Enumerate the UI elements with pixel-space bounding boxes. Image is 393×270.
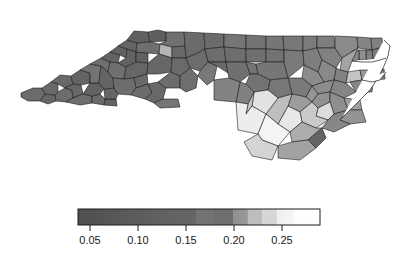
county-polygon	[204, 33, 224, 49]
legend-ticks	[90, 225, 282, 231]
county-polygon	[136, 42, 160, 54]
legend-tick-label: 0.10	[127, 234, 148, 246]
county-polygon	[147, 54, 172, 74]
legend-tick-label: 0.15	[175, 234, 196, 246]
legend-tick-labels: 0.05 0.10 0.15 0.20 0.25	[79, 234, 292, 246]
county-polygon	[148, 30, 166, 42]
county-polygon	[359, 50, 366, 60]
legend: 0.05 0.10 0.15 0.20 0.25	[0, 200, 393, 260]
county-polygon	[266, 36, 284, 50]
county-polygon	[172, 46, 186, 58]
county-polygon	[104, 99, 117, 106]
legend-tick-label: 0.25	[271, 234, 292, 246]
county-polygon	[136, 52, 148, 63]
county-polygon	[246, 49, 266, 62]
county-polygon	[278, 140, 316, 160]
legend-colorbar: 0.05 0.10 0.15 0.20 0.25	[0, 200, 393, 260]
county-polygon	[205, 47, 226, 62]
county-polygon	[214, 78, 240, 102]
legend-tick-label: 0.05	[79, 234, 100, 246]
county-polygon	[246, 35, 266, 49]
county-polygon	[283, 36, 303, 51]
choropleth-figure: 0.05 0.10 0.15 0.20 0.25	[0, 0, 393, 270]
county-polygon	[266, 49, 284, 62]
north-carolina-county-map	[0, 0, 393, 175]
county-polygon	[224, 34, 246, 49]
county-polygon	[224, 47, 246, 62]
county-polygon	[42, 82, 58, 95]
county-polygon	[127, 31, 150, 43]
county-polygon	[366, 50, 373, 60]
legend-tick-label: 0.20	[223, 234, 244, 246]
county-polygon	[317, 36, 335, 48]
county-polygon	[357, 37, 372, 50]
legend-bar	[78, 209, 320, 225]
county-polygon	[284, 50, 304, 78]
county-layer	[21, 30, 390, 160]
